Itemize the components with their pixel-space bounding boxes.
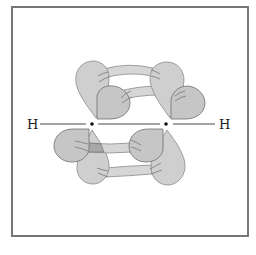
acetylene-pi-bond-diagram: .lobe { fill: #cfcfcf; stroke: #8a8a8a; … [0, 0, 256, 255]
upper-right-side-lobe [171, 86, 205, 119]
lower-left-side-lobe [54, 129, 89, 162]
lower-pi-band-back [105, 165, 152, 177]
carbon-2-dot [164, 122, 168, 126]
carbon-1-dot [90, 122, 94, 126]
upper-pi-band-back [104, 65, 153, 78]
lower-right-side-lobe [129, 129, 163, 162]
hydrogen-left-label: H [27, 117, 38, 132]
hydrogen-right-label: H [219, 117, 230, 132]
